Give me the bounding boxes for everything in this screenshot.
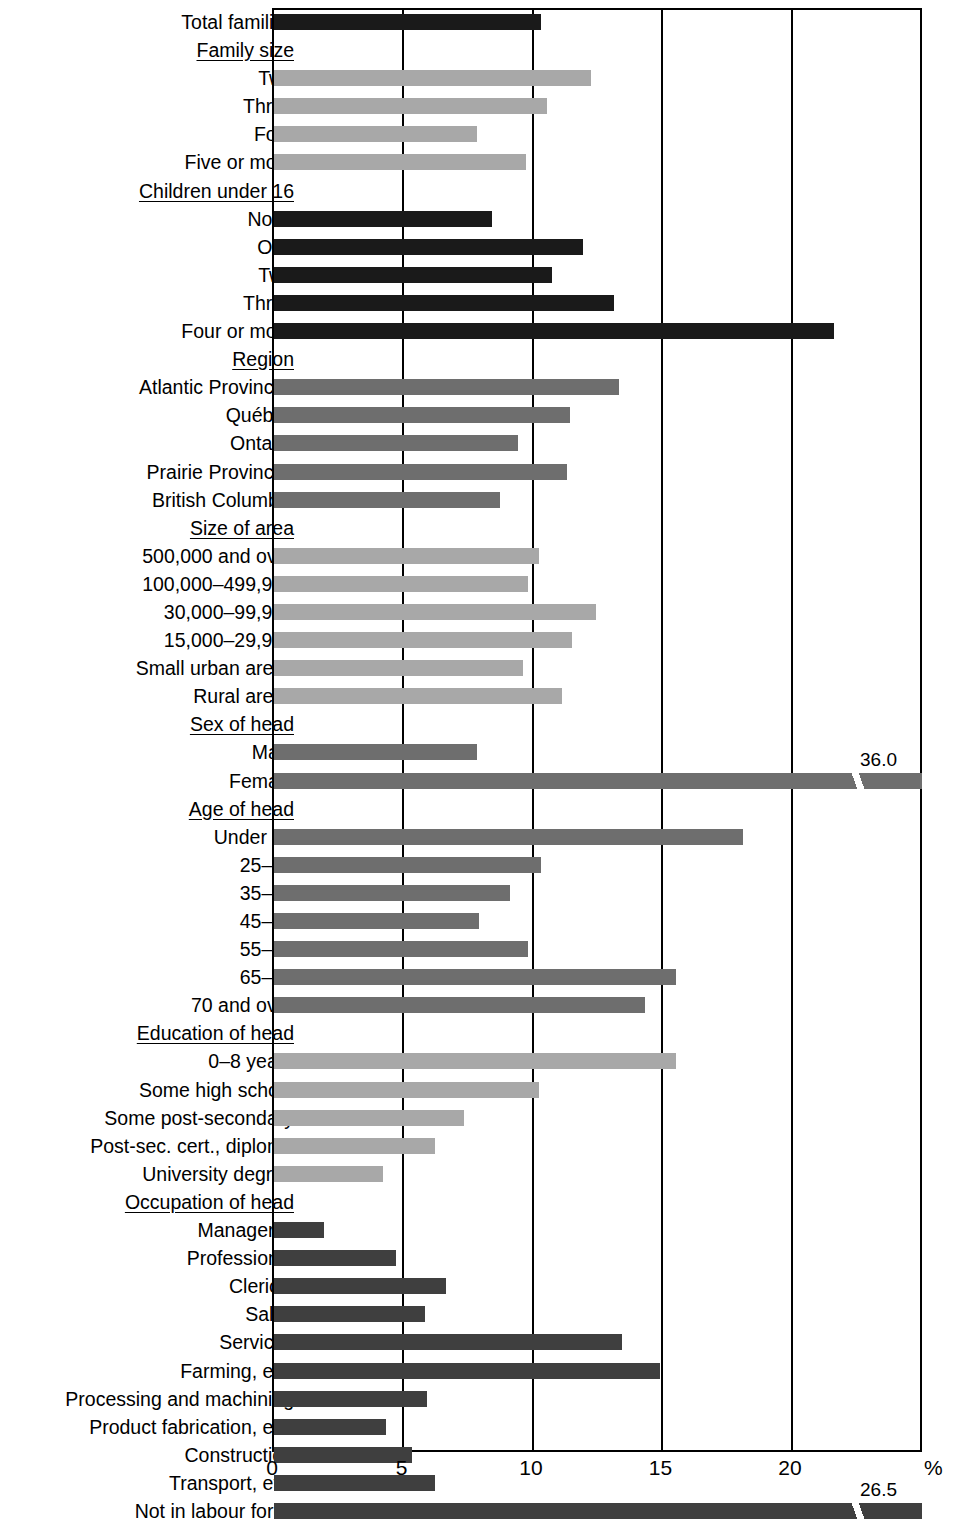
bar bbox=[274, 14, 541, 30]
chart-row: Québec bbox=[0, 401, 957, 429]
bar bbox=[274, 295, 614, 311]
bar bbox=[274, 688, 562, 704]
category-label: Post-sec. cert., diploma bbox=[90, 1132, 294, 1160]
chart-row: 55–64 bbox=[0, 935, 957, 963]
chart-row: Two bbox=[0, 64, 957, 92]
bar bbox=[274, 154, 526, 170]
chart-row: 30,000–99,999 bbox=[0, 598, 957, 626]
bar bbox=[274, 323, 834, 339]
chart-row: Prairie Provinces bbox=[0, 458, 957, 486]
chart-row: Some high school bbox=[0, 1076, 957, 1104]
chart-row: One bbox=[0, 233, 957, 261]
category-label: Product fabrication, etc. bbox=[89, 1413, 294, 1441]
chart-row: Product fabrication, etc. bbox=[0, 1413, 957, 1441]
chart-row: None bbox=[0, 205, 957, 233]
x-axis: 05101520% bbox=[0, 1456, 957, 1490]
group-label: Age of head bbox=[189, 795, 294, 823]
bar bbox=[274, 941, 528, 957]
chart-row: 15,000–29,999 bbox=[0, 626, 957, 654]
chart-row: Three bbox=[0, 92, 957, 120]
category-label: University degree bbox=[142, 1160, 294, 1188]
bar bbox=[274, 548, 539, 564]
chart-row: Total families bbox=[0, 8, 957, 36]
bar bbox=[274, 492, 500, 508]
bar bbox=[274, 1082, 539, 1098]
bar bbox=[274, 1278, 446, 1294]
bar bbox=[274, 576, 528, 592]
chart-row: Farming, etc. bbox=[0, 1357, 957, 1385]
chart-row: Four bbox=[0, 120, 957, 148]
group-header-row: Age of head bbox=[0, 795, 957, 823]
group-header-row: Family size bbox=[0, 36, 957, 64]
bar bbox=[274, 1419, 386, 1435]
chart-row: Sales bbox=[0, 1300, 957, 1328]
bar bbox=[274, 885, 510, 901]
chart-row: Not in labour force26.5 bbox=[0, 1497, 957, 1525]
x-tick-0: 0 bbox=[266, 1456, 278, 1480]
group-header-row: Sex of head bbox=[0, 710, 957, 738]
group-header-row: Region bbox=[0, 345, 957, 373]
chart-row: 0–8 years bbox=[0, 1047, 957, 1075]
chart-row: Professional bbox=[0, 1244, 957, 1272]
bar bbox=[274, 98, 547, 114]
bar bbox=[274, 1250, 396, 1266]
bar bbox=[274, 744, 477, 760]
bar bbox=[274, 632, 572, 648]
category-label: Small urban areas bbox=[136, 654, 294, 682]
chart-row: Atlantic Provinces bbox=[0, 373, 957, 401]
group-header-row: Children under 16 bbox=[0, 177, 957, 205]
x-tick-5: 5 bbox=[396, 1456, 408, 1480]
bar bbox=[274, 1053, 676, 1069]
group-label: Family size bbox=[196, 36, 294, 64]
bar bbox=[274, 126, 477, 142]
chart-row: University degree bbox=[0, 1160, 957, 1188]
bar bbox=[274, 464, 567, 480]
bar-value-label: 36.0 bbox=[860, 750, 897, 769]
bar bbox=[274, 1363, 660, 1379]
bar bbox=[274, 211, 492, 227]
group-header-row: Education of head bbox=[0, 1019, 957, 1047]
bar bbox=[274, 1222, 324, 1238]
bar bbox=[274, 913, 479, 929]
axis-break-mark bbox=[847, 1501, 869, 1521]
chart-row: 25–34 bbox=[0, 851, 957, 879]
bar bbox=[274, 604, 596, 620]
bar bbox=[274, 773, 922, 789]
x-tick-15: 15 bbox=[649, 1456, 672, 1480]
bar bbox=[274, 997, 645, 1013]
category-label: Processing and machining bbox=[65, 1385, 294, 1413]
chart-row: British Columbia bbox=[0, 486, 957, 514]
x-tick-10: 10 bbox=[519, 1456, 542, 1480]
bar bbox=[274, 1138, 435, 1154]
category-label: Atlantic Provinces bbox=[139, 373, 294, 401]
chart-row: 65–69 bbox=[0, 963, 957, 991]
x-tick-20: 20 bbox=[778, 1456, 801, 1480]
category-label: Prairie Provinces bbox=[147, 458, 294, 486]
bar bbox=[274, 857, 541, 873]
bar bbox=[274, 1391, 427, 1407]
bar bbox=[274, 1306, 425, 1322]
chart-row: Ontario bbox=[0, 429, 957, 457]
bar bbox=[274, 239, 583, 255]
group-header-row: Occupation of head bbox=[0, 1188, 957, 1216]
bar bbox=[274, 407, 570, 423]
chart-row: Five or more bbox=[0, 148, 957, 176]
chart-row: Post-sec. cert., diploma bbox=[0, 1132, 957, 1160]
group-label: Size of area bbox=[190, 514, 294, 542]
chart-row: Managerial bbox=[0, 1216, 957, 1244]
chart-row: Female36.0 bbox=[0, 767, 957, 795]
bar bbox=[274, 1166, 383, 1182]
category-label: 500,000 and over bbox=[142, 542, 294, 570]
chart-row: Services bbox=[0, 1328, 957, 1356]
category-label: 100,000–499,999 bbox=[142, 570, 294, 598]
bar-chart: Total familiesFamily sizeTwoThreeFourFiv… bbox=[0, 0, 957, 1532]
category-label: Not in labour force bbox=[135, 1497, 294, 1525]
bar bbox=[274, 435, 518, 451]
bar bbox=[274, 70, 591, 86]
chart-row: Male bbox=[0, 738, 957, 766]
bar bbox=[274, 969, 676, 985]
chart-row: Three bbox=[0, 289, 957, 317]
category-label: British Columbia bbox=[152, 486, 294, 514]
chart-row: Rural areas bbox=[0, 682, 957, 710]
chart-row: Four or more bbox=[0, 317, 957, 345]
